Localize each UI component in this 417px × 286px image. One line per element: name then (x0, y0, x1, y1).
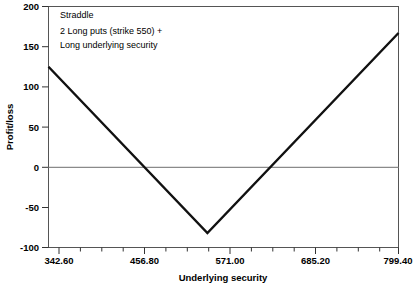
x-tick-label: 799.40 (383, 255, 412, 266)
straddle-payoff-chart: 200 150 100 50 0 -50 -100 Profit/loss (0, 0, 417, 286)
x-tick-label: 571.00 (215, 255, 244, 266)
x-tick-label: 685.20 (301, 255, 330, 266)
y-tick-label: 100 (23, 81, 39, 92)
annotation-line: Long underlying security (60, 40, 158, 50)
y-tick-label: -100 (20, 242, 39, 253)
y-tick-label: 50 (28, 122, 39, 133)
x-tick-label: 342.60 (44, 255, 73, 266)
y-tick-label: -50 (25, 202, 39, 213)
x-axis-title: Underlying security (179, 272, 268, 283)
y-tick-label: 150 (23, 41, 39, 52)
chart-container: 200 150 100 50 0 -50 -100 Profit/loss (0, 0, 417, 286)
y-axis-title: Profit/loss (4, 104, 15, 150)
y-tick-label: 0 (34, 162, 39, 173)
y-tick-label: 200 (23, 1, 39, 12)
annotation-line: 2 Long puts (strike 550) + (60, 26, 162, 36)
x-tick-label: 456.80 (130, 255, 159, 266)
annotation-line: Straddle (60, 10, 94, 20)
